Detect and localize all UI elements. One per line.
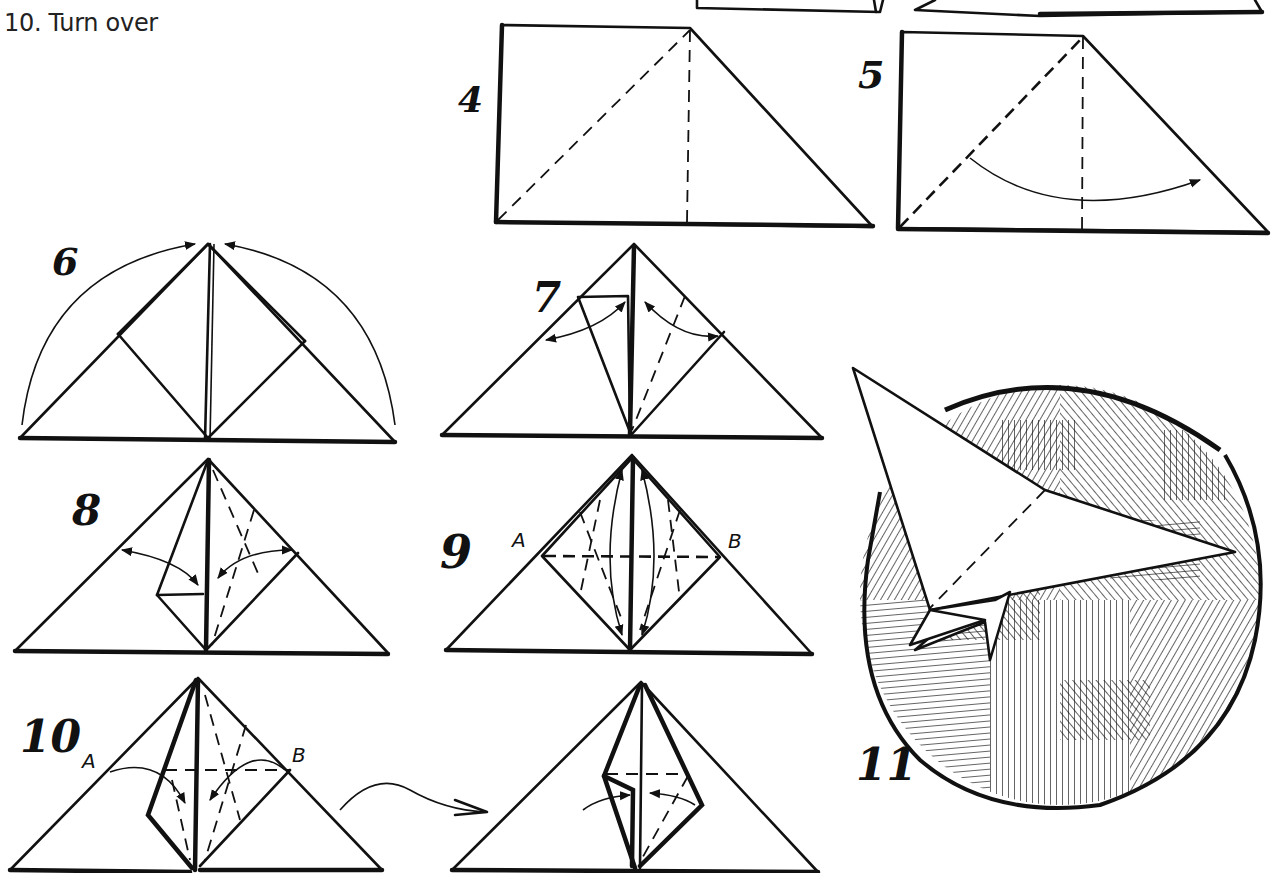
step-8-figure: 8	[15, 459, 388, 654]
step-10-turned-figure	[452, 682, 818, 872]
step-number-6: 6	[52, 239, 78, 284]
point-a-label: A	[510, 528, 526, 552]
step-number-4: 4	[458, 78, 483, 120]
step-10-figure: 10 A B	[10, 678, 382, 872]
turn-over-arrow	[340, 783, 487, 815]
origami-diagram: 4 5 6 7 8	[0, 0, 1272, 873]
step-number-5: 5	[858, 52, 884, 97]
step-number-9: 9	[440, 525, 472, 579]
step-11-figure: 11	[850, 368, 1270, 820]
point-b-label: B	[292, 743, 306, 767]
step-6-figure: 6	[20, 239, 395, 442]
step-number-10: 10	[20, 711, 82, 762]
step-number-11: 11	[856, 739, 917, 790]
point-b-label: B	[728, 529, 742, 553]
top-partial-figures	[697, 0, 1262, 16]
step-number-7: 7	[532, 273, 561, 322]
step-5-figure: 5	[858, 32, 1268, 233]
step-number-8: 8	[71, 486, 101, 535]
step-7-figure: 7	[442, 244, 822, 438]
step-9-figure: 9 A B	[440, 455, 812, 654]
point-a-label: A	[80, 749, 96, 773]
step-4-figure: 4	[458, 25, 873, 227]
